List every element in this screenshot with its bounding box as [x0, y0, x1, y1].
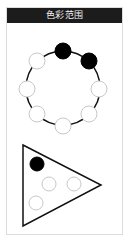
- color-triangle: [23, 145, 101, 226]
- ring-dot-empty[interactable]: [55, 118, 71, 134]
- ring-dot-empty[interactable]: [29, 106, 45, 122]
- color-ring: [19, 43, 107, 134]
- diagram-canvas: [0, 0, 128, 239]
- triangle-dot-empty[interactable]: [29, 196, 43, 210]
- ring-dot-empty[interactable]: [29, 53, 45, 69]
- ring-dot-empty[interactable]: [91, 81, 107, 97]
- triangle-dot-filled[interactable]: [30, 157, 44, 171]
- ring-dot-filled[interactable]: [55, 43, 71, 59]
- ring-dot-empty[interactable]: [19, 81, 35, 97]
- triangle-dot-empty[interactable]: [67, 177, 81, 191]
- triangle-dot-empty[interactable]: [42, 177, 56, 191]
- ring-dot-filled[interactable]: [81, 53, 97, 69]
- ring-dot-empty[interactable]: [81, 106, 97, 122]
